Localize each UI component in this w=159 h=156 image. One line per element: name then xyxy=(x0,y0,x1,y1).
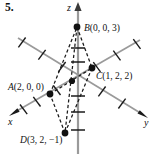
z-axis-arrow-icon xyxy=(74,2,81,11)
point-B-dot xyxy=(74,24,81,31)
point-midpoint-dot xyxy=(69,78,75,84)
x-axis-arrow-icon xyxy=(9,108,20,116)
point-D-coords: (3, 2, −1) xyxy=(27,135,62,145)
point-A-label: A(2, 0, 0) xyxy=(8,83,44,93)
point-C-coords: (1, 2, 2) xyxy=(102,71,132,81)
point-C-dot xyxy=(89,65,96,72)
point-C-label: C(1, 2, 2) xyxy=(96,72,132,82)
point-D-label: D(3, 2, −1) xyxy=(20,136,62,146)
figure-canvas xyxy=(0,0,159,156)
x-axis-label: x xyxy=(8,117,12,127)
edge-D-A xyxy=(50,94,65,133)
z-axis-label: z xyxy=(67,3,71,13)
point-D-dot xyxy=(62,130,69,137)
point-D-name: D xyxy=(20,135,27,145)
y-axis-label: y xyxy=(144,118,148,128)
point-B-label: B(0, 0, 3) xyxy=(84,24,120,34)
point-A-dot xyxy=(47,91,54,98)
point-A-coords: (2, 0, 0) xyxy=(14,82,44,92)
point-B-coords: (0, 0, 3) xyxy=(90,23,120,33)
figure-3d-parallelogram: 5. z x y B(0, 0, 3) C(1, 2, 2) A(2, 0, 0… xyxy=(0,0,159,156)
figure-number: 5. xyxy=(5,2,14,14)
